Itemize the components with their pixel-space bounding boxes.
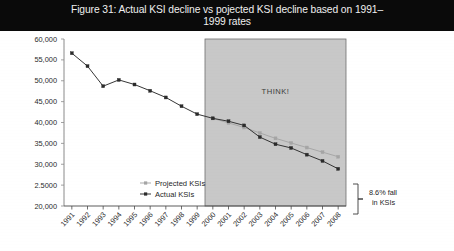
series-marker [305,146,308,149]
series-marker [102,85,105,88]
x-tick-label: 1993 [90,210,108,228]
bracket-annotation-line2: in KSIs [372,198,395,207]
x-tick-label: 2004 [262,210,280,228]
chart-plot-area: THINK! 20,0002.500030,00035,00040,00045,… [0,31,454,251]
figure-title-line2: 1999 rates [203,16,251,27]
figure-title: Figure 31: Actual KSI decline vs pojecte… [71,4,383,27]
legend-swatch-marker [144,192,147,195]
x-tick-label: 1996 [137,210,155,228]
y-tick-label: 50,000 [34,76,57,85]
y-tick-label: 60,000 [34,35,57,44]
y-axis-ticks: 20,0002.500030,00035,00040,00045,00050,0… [34,35,64,211]
y-tick-label: 35,000 [34,139,57,148]
legend-swatch-marker [144,181,147,184]
x-tick-label: 1998 [168,210,186,228]
x-tick-label: 2001 [215,210,233,228]
y-tick-label: 20,000 [34,202,57,211]
x-tick-label: 2000 [200,210,218,228]
x-tick-label: 1991 [59,210,77,228]
y-tick-label: 40,000 [34,118,57,127]
x-tick-label: 2008 [325,210,343,228]
series-marker [243,124,246,127]
x-tick-label: 2003 [247,210,265,228]
figure-container: Figure 31: Actual KSI decline vs pojecte… [0,0,454,251]
x-tick-label: 1995 [121,210,139,228]
series-marker [164,96,167,99]
x-tick-label: 2007 [309,210,327,228]
x-tick-label: 1994 [106,210,124,228]
series-marker [180,105,183,108]
figure-title-bar: Figure 31: Actual KSI decline vs pojecte… [0,0,454,31]
x-tick-label: 1999 [184,210,202,228]
legend-label: Projected KSIs [155,179,205,188]
x-tick-label: 2002 [231,210,249,228]
series-marker [290,146,293,149]
series-marker [290,141,293,144]
x-tick-label: 1997 [153,210,171,228]
series-marker [196,113,199,116]
series-marker [133,83,136,86]
bracket-annotation-line1: 8.6% fall [369,188,397,197]
series-marker [70,52,73,55]
y-tick-label: 55,000 [34,55,57,64]
series-marker [149,89,152,92]
series-marker [258,136,261,139]
bracket-annotation-shape [353,184,363,214]
think-label: THINK! [262,87,290,96]
chart-legend: Projected KSIsActual KSIs [140,179,205,199]
line-chart: THINK! 20,0002.500030,00035,00040,00045,… [0,31,454,251]
series-marker [86,65,89,68]
series-marker [337,167,340,170]
y-tick-label: 30,000 [34,160,57,169]
x-tick-label: 1992 [74,210,92,228]
series-marker [117,78,120,81]
figure-title-line1: Figure 31: Actual KSI decline vs pojecte… [71,4,383,15]
series-marker [274,143,277,146]
x-tick-label: 2006 [294,210,312,228]
series-marker [337,155,340,158]
series-marker [321,159,324,162]
series-marker [211,117,214,120]
y-tick-label: 45,000 [34,97,57,106]
series-marker [227,120,230,123]
x-tick-label: 2005 [278,210,296,228]
series-marker [321,151,324,154]
series-marker [274,137,277,140]
y-tick-label: 2.5000 [34,181,57,190]
legend-label: Actual KSIs [155,190,194,199]
x-axis-ticks: 1991199219931994199519961997199819992000… [59,206,343,228]
series-marker [305,153,308,156]
series-marker [258,131,261,134]
